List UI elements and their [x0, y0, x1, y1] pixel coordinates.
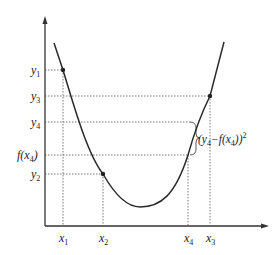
y-axis-arrow-icon [43, 16, 48, 24]
label-f-x4: f(x4) [17, 149, 38, 164]
diagram-canvas [0, 0, 280, 255]
label-y4: y4 [31, 116, 40, 131]
x-axis-arrow-icon [261, 224, 269, 229]
label-x2: x2 [99, 232, 108, 247]
label-x3: x3 [206, 232, 215, 247]
data-point-1 [61, 68, 65, 72]
label-x4: x4 [184, 232, 193, 247]
label-y3: y3 [31, 90, 40, 105]
squared-error-annotation: (y4−f(x4))2 [198, 132, 247, 148]
data-point-3 [208, 94, 212, 98]
label-x1: x1 [59, 232, 68, 247]
data-point-2 [101, 172, 105, 176]
function-curve [54, 42, 224, 207]
label-y2: y2 [31, 168, 40, 183]
label-y1: y1 [31, 64, 40, 79]
